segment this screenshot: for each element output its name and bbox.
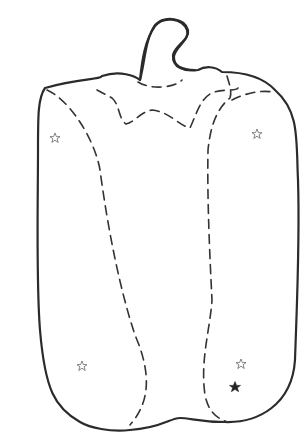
right-lobe-dashed: [204, 76, 231, 422]
pepper-body-outline: [38, 19, 299, 431]
star-upper-right-icon: [252, 129, 262, 139]
star-upper-left-icon: [50, 133, 60, 143]
stem-base-dashed: [138, 80, 182, 87]
bell-pepper-drawing: [0, 0, 307, 445]
star-filled-icon: [230, 382, 241, 392]
star-lower-left-icon: [77, 361, 87, 371]
left-lobe-dashed: [47, 90, 146, 425]
crown-dashed: [97, 88, 238, 128]
right-inner-dashed: [232, 91, 272, 100]
star-lower-right-icon: [236, 359, 246, 369]
